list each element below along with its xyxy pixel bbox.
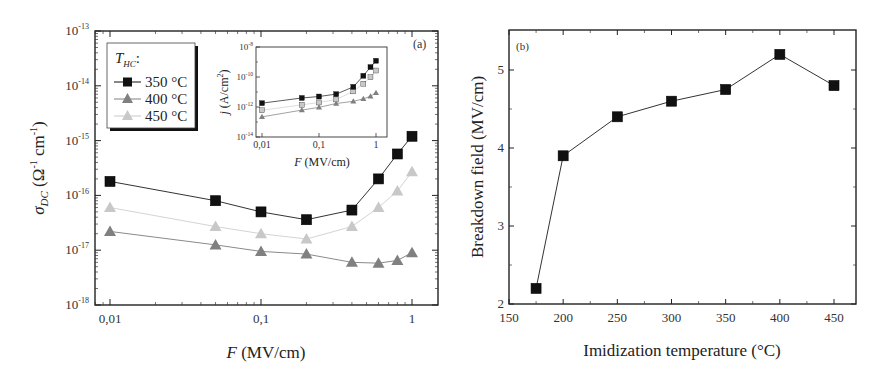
y-tick-label: 10-10 [237, 71, 254, 82]
inset-data-point [299, 95, 304, 100]
data-point [392, 149, 402, 159]
chart-a-x-axis-title: F (MV/cm) [226, 343, 306, 362]
data-point [104, 202, 116, 213]
inset-y-axis-title: j (A/cm2) [216, 70, 231, 117]
x-tick-label: 150 [499, 310, 519, 325]
inset-data-point [374, 58, 379, 63]
chart-b-x-axis-title: Imidization temperature (°C) [583, 341, 781, 360]
data-point [407, 131, 417, 141]
data-point [347, 205, 357, 215]
inset-x-axis-title: F (MV/cm) [293, 155, 350, 169]
y-tick-label: 10-15 [65, 132, 89, 148]
chart-a-y-axis-title: σDC (Ω-1 cm-1) [28, 121, 50, 215]
y-tick-label: 10-14 [237, 131, 254, 142]
y-tick-label: 10-18 [65, 296, 89, 312]
y-tick-label: 10-14 [65, 77, 89, 93]
data-point [775, 49, 785, 59]
chart-b-panel-label: (b) [516, 40, 529, 53]
data-point [346, 221, 358, 232]
chart-a-series [104, 131, 418, 267]
data-point [391, 185, 403, 196]
chart-b-y-axis-title: Breakdown field (MV/cm) [468, 76, 487, 258]
data-point [721, 85, 731, 95]
data-point [300, 248, 312, 259]
inset-data-point [374, 68, 379, 73]
inset-data-point [368, 75, 373, 80]
legend-marker-350 [123, 78, 132, 87]
inset-data-point [334, 97, 339, 102]
y-tick-label: 10-16 [65, 187, 89, 203]
x-tick-label: 250 [608, 310, 628, 325]
y-tick-label: 10-13 [65, 22, 89, 38]
data-point [558, 151, 568, 161]
chart-a-legend: THC: 350 °C 400 °C 450 °C [107, 43, 198, 131]
data-point [105, 176, 115, 186]
x-tick-label: 0,1 [253, 311, 269, 326]
legend-label-450: 450 °C [145, 108, 187, 124]
data-point [406, 247, 418, 258]
data-point [829, 81, 839, 91]
inset-data-point [260, 101, 265, 106]
inset-data-point [334, 92, 339, 97]
inset-data-point [317, 100, 322, 105]
series-line-breakdown [536, 54, 834, 288]
chart-b-ticks: 1502002503003504004502345 [498, 30, 857, 325]
chart-a-panel-label: (a) [413, 37, 426, 51]
x-tick-label: 300 [662, 310, 682, 325]
data-point [374, 174, 384, 184]
data-point [211, 196, 221, 206]
data-point [667, 96, 677, 106]
inset-data-point [368, 65, 373, 70]
inset-data-point [260, 108, 265, 113]
inset-data-point [351, 89, 356, 94]
chart-a-conductivity: 10-1810-1710-1610-1510-1410-130,010,11 (… [28, 22, 438, 362]
data-point [612, 112, 622, 122]
inset-data-point [351, 84, 356, 89]
legend-label-350: 350 °C [145, 74, 187, 90]
x-tick-label: 1 [409, 311, 416, 326]
data-point [104, 225, 116, 236]
y-tick-label: 3 [498, 218, 505, 233]
data-point [391, 254, 403, 265]
inset-x-tick-label: 0,01 [253, 139, 271, 150]
x-tick-label: 200 [553, 310, 573, 325]
data-point [373, 202, 385, 213]
data-point [301, 215, 311, 225]
inset-frame [256, 47, 387, 137]
y-tick-label: 10-12 [237, 101, 254, 112]
x-tick-label: 0,01 [99, 311, 122, 326]
figure: 10-1810-1710-1610-1510-1410-130,010,11 (… [0, 0, 877, 374]
chart-a-inset: 10-1410-1210-1010-80,010,11 F (MV/cm) j … [216, 41, 387, 169]
data-point [406, 166, 418, 177]
y-tick-label: 4 [498, 140, 505, 155]
y-tick-label: 2 [498, 296, 505, 311]
inset-data-point [361, 73, 366, 78]
data-point [256, 207, 266, 217]
data-point [531, 283, 541, 293]
legend-label-400: 400 °C [145, 91, 187, 107]
x-tick-label: 350 [716, 310, 736, 325]
inset-x-tick-label: 0,1 [313, 139, 326, 150]
chart-b-breakdown-field: 1502002503003504004502345 (b) Imidizatio… [468, 30, 856, 360]
y-tick-label: 10-17 [65, 241, 89, 257]
inset-data-point [299, 102, 304, 107]
inset-data-point [317, 94, 322, 99]
inset-data-point [361, 81, 366, 86]
y-tick-label: 10-8 [239, 41, 253, 52]
x-tick-label: 450 [824, 310, 844, 325]
inset-x-tick-label: 1 [374, 139, 379, 150]
y-tick-label: 5 [498, 62, 505, 77]
x-tick-label: 400 [770, 310, 790, 325]
chart-b-series [531, 49, 839, 293]
